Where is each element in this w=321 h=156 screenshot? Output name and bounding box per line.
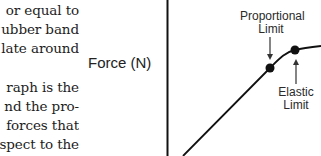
proportional-limit-marker bbox=[266, 64, 275, 73]
elastic-limit-label: Elastic Limit bbox=[272, 86, 320, 112]
elastic-limit-label-line2: Limit bbox=[272, 99, 320, 112]
arrow-up-icon bbox=[293, 59, 299, 84]
proportional-limit-label-line2: Limit bbox=[240, 23, 302, 36]
arrow-down-icon bbox=[267, 37, 273, 60]
proportional-limit-label: Proportional Limit bbox=[240, 10, 302, 36]
elastic-limit-marker bbox=[291, 46, 300, 55]
